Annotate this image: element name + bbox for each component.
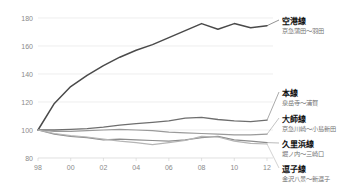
line-chart: 80100120140160180 9800020406081012 空港線京急… [0, 0, 352, 190]
leader-line-2 [267, 118, 279, 134]
series-lines-group [38, 24, 267, 145]
series-labels-group: 空港線京急蒲田〜羽田本線泉岳寺〜浦賀大師線京急川崎〜小島新田久里浜線堀ノ内〜三崎… [281, 16, 336, 183]
y-tick-label: 140 [21, 71, 33, 78]
y-axis-tick-labels: 80100120140160180 [21, 15, 33, 162]
leader-line-1 [267, 92, 279, 120]
y-tick-label: 180 [21, 15, 33, 22]
y-tick-label: 80 [25, 155, 33, 162]
y-tick-label: 160 [21, 43, 33, 50]
x-tick-label: 12 [263, 164, 271, 171]
series-label-name: 空港線 [282, 16, 306, 26]
x-tick-label: 00 [67, 164, 75, 171]
x-tick-label: 08 [198, 164, 206, 171]
x-tick-label: 10 [230, 164, 238, 171]
series-line-0 [38, 24, 267, 130]
series-label-name: 本線 [281, 88, 298, 98]
x-axis-tick-labels: 9800020406081012 [34, 164, 271, 171]
series-label-name: 大師線 [282, 114, 306, 124]
series-label-name: 逗子線 [282, 164, 306, 174]
series-leader-lines [267, 20, 279, 168]
series-line-4 [38, 130, 267, 145]
x-tick-label: 06 [165, 164, 173, 171]
series-label-section: 泉岳寺〜浦賀 [282, 99, 318, 107]
y-tick-label: 100 [21, 127, 33, 134]
chart-canvas: 80100120140160180 9800020406081012 空港線京急… [0, 0, 352, 190]
series-label-section: 金沢八景〜新逗子 [282, 175, 330, 183]
x-tick-label: 98 [34, 164, 42, 171]
x-tick-label: 02 [100, 164, 108, 171]
series-line-1 [38, 117, 267, 130]
x-axis [38, 158, 267, 161]
series-label-section: 堀ノ内〜三崎口 [282, 150, 324, 158]
series-label-section: 京急川崎〜小島新田 [282, 125, 336, 133]
series-label-name: 久里浜線 [281, 139, 314, 149]
x-tick-label: 04 [132, 164, 140, 171]
y-tick-label: 120 [21, 99, 33, 106]
series-label-section: 京急蒲田〜羽田 [282, 27, 324, 35]
leader-line-0 [267, 20, 279, 26]
